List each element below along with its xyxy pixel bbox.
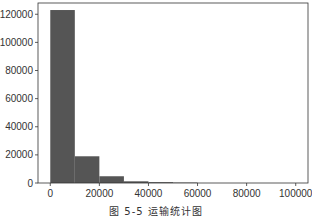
histogram-bars — [50, 10, 197, 183]
y-tick-label: 20000 — [5, 149, 33, 160]
x-tick-label: 80000 — [233, 188, 261, 199]
plot-frame — [38, 3, 308, 183]
x-tick-label: 20000 — [85, 188, 113, 199]
x-tick-label: 60000 — [184, 188, 212, 199]
histogram-bar — [75, 156, 100, 183]
histogram-chart: 020000400006000080000100000120000 020000… — [0, 0, 312, 200]
y-tick-label: 100000 — [0, 37, 33, 48]
y-tick-label: 80000 — [5, 65, 33, 76]
y-tick-label: 120000 — [0, 9, 33, 20]
figure-caption: 图 5-5 运输统计图 — [0, 203, 312, 218]
x-tick-label: 0 — [47, 188, 53, 199]
histogram-bar — [99, 176, 124, 183]
x-axis: 020000400006000080000100000 — [47, 183, 312, 199]
x-tick-label: 100000 — [279, 188, 312, 199]
y-axis: 020000400006000080000100000120000 — [0, 9, 38, 189]
histogram-bar — [50, 10, 75, 183]
y-tick-label: 40000 — [5, 121, 33, 132]
x-tick-label: 40000 — [135, 188, 163, 199]
y-tick-label: 60000 — [5, 93, 33, 104]
y-tick-label: 0 — [27, 178, 33, 189]
